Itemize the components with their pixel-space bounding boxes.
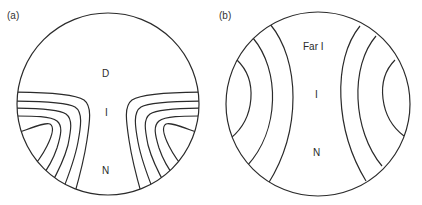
panel-b-region-top: Far I xyxy=(303,42,324,52)
panel-b-region-middle: I xyxy=(315,90,318,100)
panel-b-diagram xyxy=(226,12,410,196)
panel-b-label: (b) xyxy=(219,11,231,21)
panel-a-contours-right xyxy=(126,92,206,196)
panel-a-region-middle: I xyxy=(105,108,108,118)
panel-a-region-bottom: N xyxy=(102,166,109,176)
panel-b-region-bottom: N xyxy=(313,148,320,158)
panel-a-contours-left xyxy=(10,92,90,196)
panel-a-label: (a) xyxy=(7,11,19,21)
panel-b-arcs-right xyxy=(341,26,404,181)
diagram-canvas xyxy=(0,0,422,205)
panel-a-region-top: D xyxy=(102,69,109,79)
panel-b-arcs-left xyxy=(231,24,293,184)
